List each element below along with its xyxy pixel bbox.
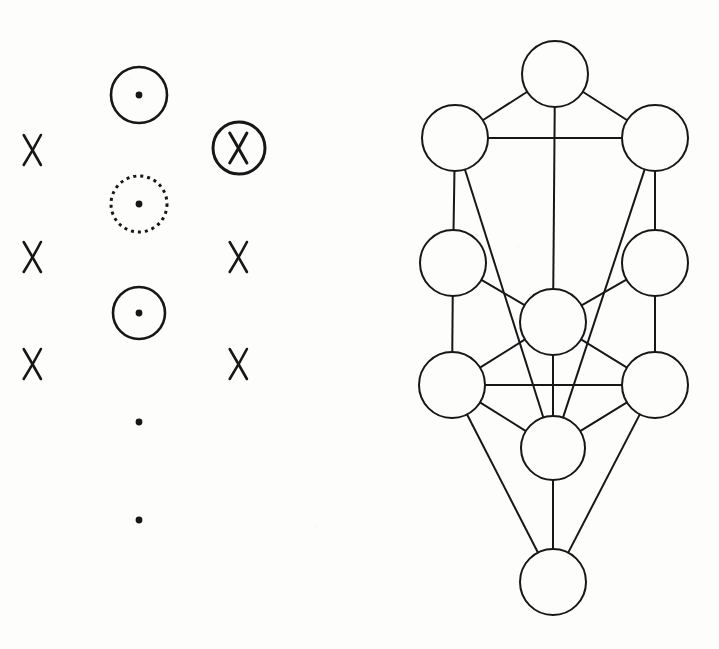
diagram-canvas <box>0 0 719 649</box>
center-dot-icon <box>136 201 143 208</box>
node-middle-left <box>420 230 486 296</box>
dot-icon <box>136 419 143 426</box>
node-lower-right <box>622 352 688 418</box>
symbol-dot <box>136 419 143 426</box>
center-dot-icon <box>136 310 143 317</box>
node-upper-right <box>622 105 688 171</box>
diagram-page <box>0 0 719 649</box>
dot-icon <box>136 517 143 524</box>
node-middle-right <box>622 230 688 296</box>
node-lower-left <box>419 352 485 418</box>
center-dot-icon <box>136 92 143 99</box>
symbol-dot <box>136 517 143 524</box>
node-lower-center <box>521 416 585 480</box>
node-top-center <box>522 41 588 107</box>
node-upper-left <box>422 105 488 171</box>
page-background <box>0 0 719 649</box>
path-upper-left-to-middle-left <box>454 170 455 230</box>
node-center <box>520 289 586 355</box>
node-bottom <box>520 549 586 615</box>
